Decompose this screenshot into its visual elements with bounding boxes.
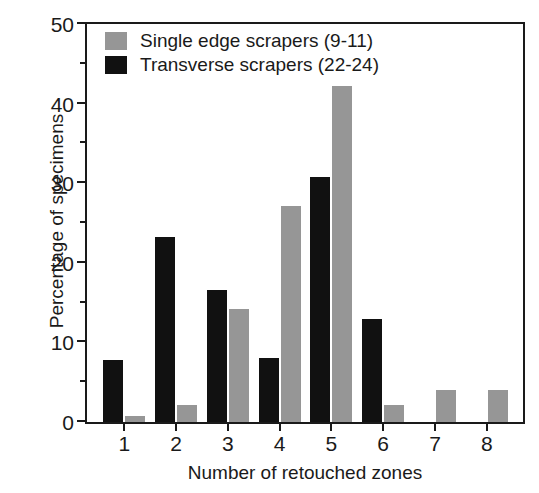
y-tick-major <box>77 22 87 24</box>
y-tick-minor <box>80 380 87 382</box>
bar-single-edge-scrapers <box>436 390 456 422</box>
plot-area: 01020304050 <box>85 22 525 424</box>
bar-single-edge-scrapers <box>177 405 197 422</box>
x-tick <box>486 422 488 431</box>
y-tick-minor <box>80 141 87 143</box>
x-tick <box>382 422 384 431</box>
x-tick <box>123 422 125 431</box>
y-tick-major <box>77 181 87 183</box>
bar-transverse-scrapers <box>207 290 227 422</box>
legend-swatch-icon <box>105 56 127 74</box>
legend-label: Transverse scrapers (22-24) <box>140 54 379 76</box>
bar-transverse-scrapers <box>155 237 175 422</box>
bar-single-edge-scrapers <box>332 86 352 422</box>
x-tick-label: 1 <box>118 432 130 456</box>
bar-transverse-scrapers <box>103 360 123 422</box>
y-tick-major <box>77 102 87 104</box>
y-tick-label: 20 <box>51 252 74 276</box>
y-tick-major <box>77 340 87 342</box>
y-tick-label: 50 <box>51 13 74 37</box>
x-tick-label: 8 <box>481 432 493 456</box>
y-tick-minor <box>80 301 87 303</box>
legend-item: Single edge scrapers (9-11) <box>105 29 379 53</box>
chart-legend: Single edge scrapers (9-11)Transverse sc… <box>105 29 379 77</box>
y-tick-major <box>77 420 87 422</box>
bar-transverse-scrapers <box>259 358 279 422</box>
bar-transverse-scrapers <box>362 319 382 422</box>
legend-item: Transverse scrapers (22-24) <box>105 53 379 77</box>
y-tick-minor <box>80 62 87 64</box>
y-tick-label: 30 <box>51 172 74 196</box>
x-tick-label: 4 <box>274 432 286 456</box>
x-tick-label: 7 <box>429 432 441 456</box>
x-axis-title: Number of retouched zones <box>85 462 525 484</box>
y-tick-label: 10 <box>51 331 74 355</box>
x-tick-label: 3 <box>222 432 234 456</box>
y-tick-label: 40 <box>51 93 74 117</box>
bar-single-edge-scrapers <box>125 416 145 422</box>
x-tick <box>434 422 436 431</box>
y-tick-label: 0 <box>62 411 74 435</box>
x-tick-label: 5 <box>326 432 338 456</box>
chart-figure: Percentage of specimens Number of retouc… <box>0 0 539 493</box>
x-tick <box>227 422 229 431</box>
bar-transverse-scrapers <box>310 177 330 422</box>
y-tick-major <box>77 261 87 263</box>
x-tick <box>330 422 332 431</box>
x-tick-label: 6 <box>377 432 389 456</box>
x-tick <box>279 422 281 431</box>
bar-single-edge-scrapers <box>281 206 301 423</box>
x-tick-label: 2 <box>170 432 182 456</box>
bar-single-edge-scrapers <box>229 309 249 422</box>
bar-single-edge-scrapers <box>488 390 508 422</box>
bar-single-edge-scrapers <box>384 405 404 422</box>
legend-swatch-icon <box>105 32 127 50</box>
y-tick-minor <box>80 221 87 223</box>
legend-label: Single edge scrapers (9-11) <box>140 30 373 52</box>
plot-inner: 01020304050 <box>87 24 523 422</box>
x-tick <box>175 422 177 431</box>
